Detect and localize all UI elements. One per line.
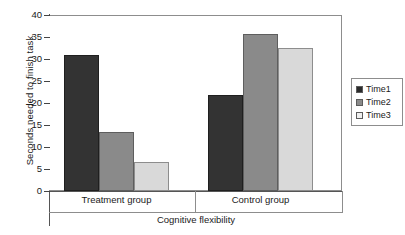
y-tick-label: 35 xyxy=(2,32,42,42)
y-tick-label: 5 xyxy=(2,164,42,174)
bar-treatment-group-time3 xyxy=(134,162,169,191)
legend-label: Time1 xyxy=(366,84,391,94)
y-tick-mark xyxy=(44,191,50,192)
y-tick-label: 40 xyxy=(2,10,42,20)
legend: Time1Time2Time3 xyxy=(351,78,403,126)
bar-treatment-group-time2 xyxy=(99,132,134,191)
legend-item: Time3 xyxy=(356,109,399,121)
y-tick-mark xyxy=(44,103,50,104)
y-tick-label: 0 xyxy=(2,186,42,196)
y-tick-label: 20 xyxy=(2,98,42,108)
legend-label: Time2 xyxy=(366,97,391,107)
y-tick-mark xyxy=(44,125,50,126)
x-axis-title: Cognitive flexibility xyxy=(49,214,343,225)
y-tick-mark xyxy=(44,147,50,148)
y-tick-mark xyxy=(44,37,50,38)
x-category-label: Control group xyxy=(192,194,329,205)
y-tick-mark xyxy=(44,169,50,170)
y-tick-mark xyxy=(44,81,50,82)
bar-chart: Seconds needed to finish task 0510152025… xyxy=(0,0,405,235)
legend-swatch-icon xyxy=(356,99,363,106)
legend-item: Time1 xyxy=(356,83,399,95)
y-tick-mark xyxy=(44,59,50,60)
x-axis-line xyxy=(49,191,343,192)
bar-treatment-group-time1 xyxy=(64,55,99,191)
bar-control-group-time3 xyxy=(278,48,313,191)
legend-swatch-icon xyxy=(356,112,363,119)
y-tick-mark xyxy=(44,15,50,16)
bar-control-group-time1 xyxy=(208,95,243,191)
bar-control-group-time2 xyxy=(243,34,278,191)
outer-frame-right xyxy=(342,191,343,213)
y-tick-label: 15 xyxy=(2,120,42,130)
legend-label: Time3 xyxy=(366,110,391,120)
outer-frame-bottom xyxy=(49,212,343,213)
y-tick-label: 25 xyxy=(2,76,42,86)
legend-item: Time2 xyxy=(356,96,399,108)
legend-swatch-icon xyxy=(356,86,363,93)
x-category-label: Treatment group xyxy=(48,194,185,205)
y-tick-label: 30 xyxy=(2,54,42,64)
y-tick-label: 10 xyxy=(2,142,42,152)
